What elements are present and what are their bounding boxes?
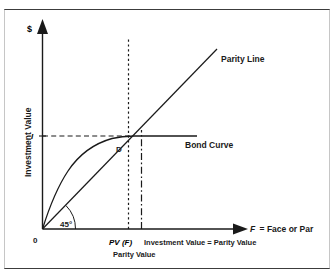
premium-label: D (116, 145, 122, 154)
x-axis-title-text: = Face or Par (260, 224, 314, 234)
intersection-label: Investment Value = Parity Value (144, 238, 256, 247)
y-axis-unit-label: $ (27, 24, 32, 34)
angle-label: 45° (60, 220, 72, 229)
x-axis-title-variable: F (250, 224, 256, 234)
y-axis-tick-label-I: I (31, 132, 34, 141)
bond-curve-label: Bond Curve (185, 140, 233, 150)
diagram-canvas: $ Investment Value I 0 Parity Line Bond … (0, 0, 334, 276)
y-axis-title: Investment Value (23, 107, 33, 177)
parity-line (43, 49, 218, 229)
parity-line-label: Parity Line (221, 54, 265, 64)
x-axis-title: F = Face or Par (250, 224, 314, 234)
origin-label: 0 (33, 236, 38, 245)
y-axis-arrowhead (37, 19, 48, 34)
bond-parity-diagram: $ Investment Value I 0 Parity Line Bond … (0, 0, 334, 276)
parity-value-label: Parity Value (113, 250, 156, 259)
pv-f-label: PV (F) (109, 238, 132, 247)
x-axis-arrowhead (233, 224, 248, 235)
